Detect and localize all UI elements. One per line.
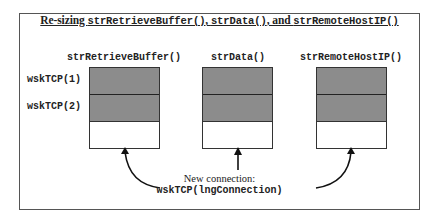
arrowhead-right-icon (347, 147, 355, 154)
caption-new-connection: New connection: (0, 173, 439, 184)
caption-wsktcp-lngconnection: wskTCP(lngConnection) (0, 185, 439, 196)
arrowhead-center-icon (234, 147, 242, 155)
arrowhead-left-icon (121, 147, 129, 154)
